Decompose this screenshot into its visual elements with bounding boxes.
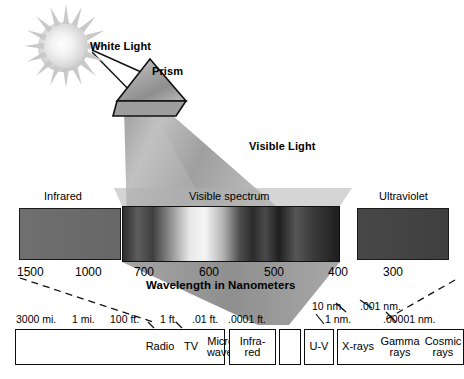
em-label-uv: U-V	[310, 341, 329, 353]
em-label-gamma-wrap: Gamma rays	[378, 329, 422, 365]
wavelength-tick-300: 300	[383, 265, 403, 279]
em-label-cosmic-rays: Cosmic rays	[425, 336, 462, 359]
em-scale-0001ft: .0001 ft.	[228, 313, 266, 325]
wavelength-tick-400: 400	[328, 265, 348, 279]
band-label-visible: Visible spectrum	[189, 190, 270, 202]
visible-light-label: Visible Light	[249, 140, 316, 152]
white-light-label: White Light	[90, 40, 151, 52]
em-label-xrays-wrap: X-rays	[338, 329, 378, 365]
em-label-cosmic-wrap: Cosmic rays	[422, 329, 464, 365]
wavelength-tick-500: 500	[264, 265, 284, 279]
em-scale-3000mi: 3000 mi.	[16, 313, 56, 325]
em-scale-10nm: 10 nm.	[312, 300, 344, 312]
wavelength-tick-1000: 1000	[75, 265, 102, 279]
wavelength-axis-title: Wavelength in Nanometers	[146, 279, 296, 291]
spectrum-bar-infrared	[19, 208, 121, 260]
wavelength-tick-1500: 1500	[17, 265, 44, 279]
em-scale-1ft: 1 ft.	[160, 313, 178, 325]
em-scale-00001nm: .00001 nm.	[383, 313, 436, 325]
em-label-gamma-rays: Gamma rays	[380, 336, 419, 359]
spectrum-bar-ultraviolet	[357, 208, 449, 260]
em-segment-infrared[interactable]: Infra- red	[229, 329, 276, 365]
band-label-ultraviolet: Ultraviolet	[379, 190, 428, 202]
wavelength-tick-700: 700	[134, 265, 154, 279]
em-label-xrays: X-rays	[342, 341, 374, 353]
em-scale-01ft: .01 ft.	[192, 313, 218, 325]
prism-label: Prism	[152, 65, 183, 77]
spectrum-bar-visible	[122, 206, 340, 262]
em-scale-100ft: 100 ft.	[110, 313, 139, 325]
em-segment-visible[interactable]	[279, 329, 301, 365]
spectrum-diagram: White Light Prism Visible Light Infrared…	[0, 0, 464, 379]
em-segment-uv[interactable]: U-V	[304, 329, 334, 365]
wavelength-tick-600: 600	[199, 265, 219, 279]
em-label-infrared: Infra- red	[240, 336, 266, 359]
band-label-infrared: Infrared	[44, 190, 82, 202]
em-scale-001nm: .001 nm.	[360, 300, 401, 312]
em-scale-1mi: 1 mi.	[72, 313, 95, 325]
em-scale-1nm: 1 nm.	[325, 313, 351, 325]
